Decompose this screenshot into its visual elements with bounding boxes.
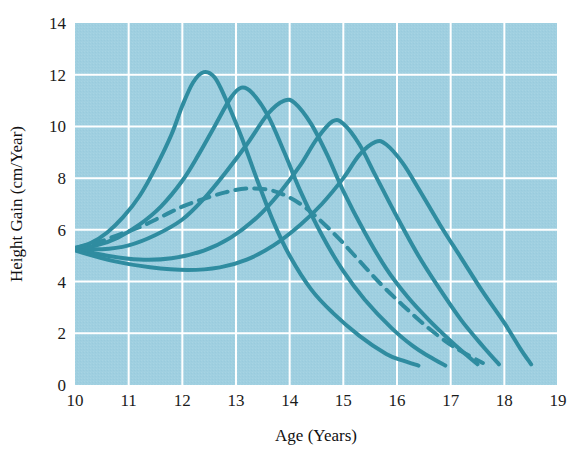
y-tick-label: 0 bbox=[58, 376, 67, 395]
x-tick-label: 18 bbox=[496, 391, 513, 410]
plot-area-background bbox=[75, 23, 558, 385]
y-tick-label: 14 bbox=[49, 14, 67, 33]
x-tick-label: 16 bbox=[389, 391, 406, 410]
y-tick-label: 4 bbox=[58, 273, 67, 292]
x-tick-label: 10 bbox=[67, 391, 84, 410]
y-tick-label: 2 bbox=[58, 324, 67, 343]
x-tick-label: 19 bbox=[550, 391, 567, 410]
height-gain-velocity-chart: 10111213141516171819 02468101214 Age (Ye… bbox=[0, 0, 582, 456]
y-tick-label: 8 bbox=[58, 169, 67, 188]
y-axis-title: Height Gain (cm/Year) bbox=[7, 126, 26, 282]
x-tick-label: 12 bbox=[174, 391, 191, 410]
y-tick-label: 6 bbox=[58, 221, 67, 240]
x-axis-title: Age (Years) bbox=[275, 426, 357, 445]
chart-canvas: 10111213141516171819 02468101214 Age (Ye… bbox=[0, 0, 582, 456]
x-tick-label: 13 bbox=[228, 391, 245, 410]
y-tick-label: 12 bbox=[49, 66, 66, 85]
y-tick-label: 10 bbox=[49, 117, 66, 136]
x-tick-label: 17 bbox=[442, 391, 460, 410]
x-tick-label: 11 bbox=[120, 391, 136, 410]
chart-figure: 10111213141516171819 02468101214 Age (Ye… bbox=[0, 0, 582, 456]
x-tick-label: 14 bbox=[281, 391, 299, 410]
x-tick-label: 15 bbox=[335, 391, 352, 410]
